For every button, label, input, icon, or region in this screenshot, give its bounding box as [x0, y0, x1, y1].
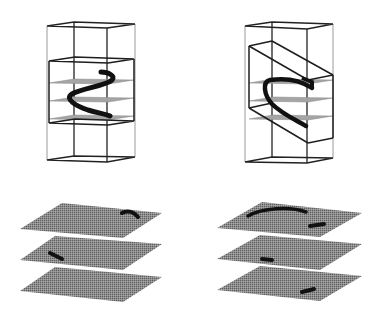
outer-box-edges [47, 22, 135, 162]
intersection-mark [262, 259, 272, 260]
intersection-mark [310, 224, 324, 226]
outer-box-edges [245, 22, 333, 163]
slice-middle [20, 236, 162, 270]
slice-bottom [20, 267, 162, 302]
panel-bottom-right-slices [217, 202, 362, 301]
slice-top [20, 203, 162, 238]
slice-planes [249, 79, 333, 120]
slanted-inner-box [249, 41, 333, 143]
slice-bottom [217, 266, 362, 301]
slice-middle [217, 235, 362, 270]
inner-box [49, 57, 134, 125]
panel-top-right-parabola [245, 22, 333, 163]
figure-canvas [0, 0, 380, 314]
outer-box-back-edges [47, 24, 135, 160]
panel-bottom-left-slices [20, 203, 162, 302]
panel-top-left-helix [47, 22, 135, 162]
